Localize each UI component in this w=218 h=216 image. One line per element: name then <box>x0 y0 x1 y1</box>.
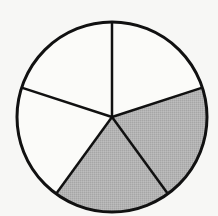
fraction-circle <box>0 0 218 216</box>
fraction-diagram: 2/5 <box>0 0 218 216</box>
